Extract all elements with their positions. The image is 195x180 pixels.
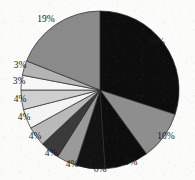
pie-slice-label: 19% [37,14,55,24]
pie-slice-label: 9% [125,157,138,167]
pie-slice-label: 4% [45,148,58,158]
pie-slice-label: 4% [66,159,79,169]
pie-slice-label: 4% [29,131,42,141]
pie-chart-figure: 30%10%9%6%4%4%4%4%4%3%3%19% [0,0,195,180]
pie-slice-label: 30% [147,37,165,47]
pie-slice-label: 4% [14,94,27,104]
pie-slice-label: 3% [14,60,27,70]
pie-slice-label: 10% [157,131,175,141]
pie-slice-label: 3% [13,76,26,86]
pie-slice-label: 6% [94,164,107,174]
pie-chart-canvas: 30%10%9%6%4%4%4%4%4%3%3%19% [0,0,195,180]
pie-slice-label: 4% [18,112,31,122]
pie-slices-group [21,11,179,169]
